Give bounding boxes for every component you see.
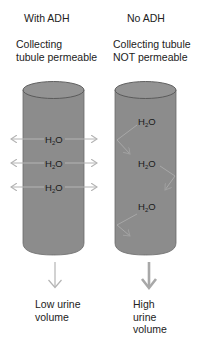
- high-urine-volume-label: High urine volume: [133, 298, 167, 336]
- urine-flow-arrow-low: [49, 262, 62, 288]
- low-urine-volume-label: Low urine volume: [35, 298, 81, 323]
- tubule-diagram: H2O H2O H2O H2O H2O H2O: [0, 0, 197, 344]
- urine-flow-arrow-high: [142, 262, 156, 288]
